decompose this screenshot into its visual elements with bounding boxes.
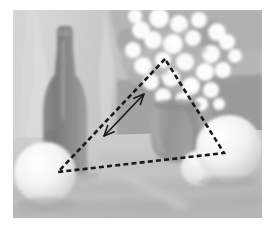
left-sphere-shadow <box>17 197 77 211</box>
figure-root: Still life composition with triangular s… <box>0 0 275 232</box>
still-life-artwork <box>13 10 262 218</box>
artwork-canvas <box>13 10 262 218</box>
right-sphere-shadow <box>199 176 259 188</box>
left-sphere <box>14 142 76 204</box>
